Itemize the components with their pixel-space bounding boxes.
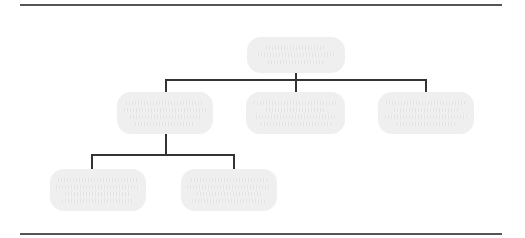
- connector-to-grandchild-1: [91, 154, 93, 169]
- node-child-2: [246, 92, 345, 134]
- obscured-text-line: [191, 178, 267, 182]
- obscured-text-line: [58, 178, 138, 182]
- obscured-text-line: [62, 199, 134, 203]
- top-rule: [20, 4, 502, 6]
- node-child-2-label: [295, 113, 296, 114]
- connector-to-child-1: [165, 79, 167, 92]
- obscured-text-line: [130, 115, 200, 119]
- node-child-1: [117, 92, 213, 134]
- node-grandchild-1: [50, 169, 146, 211]
- obscured-text-line: [65, 192, 131, 196]
- obscured-text-line: [266, 108, 326, 112]
- obscured-text-line: [386, 101, 466, 105]
- obscured-text-line: [385, 115, 467, 119]
- obscured-text-line: [256, 115, 336, 119]
- connector-to-grandchild-2: [233, 154, 235, 169]
- node-root: [247, 37, 345, 73]
- obscured-text-line: [124, 108, 206, 112]
- obscured-text-line: [197, 192, 261, 196]
- obscured-text-line: [135, 122, 195, 126]
- connector-to-child-2: [295, 79, 297, 92]
- obscured-text-line: [261, 122, 331, 126]
- obscured-text-line: [268, 60, 324, 64]
- obscured-text-line: [126, 101, 204, 105]
- obscured-text-line: [56, 185, 140, 189]
- node-grandchild-2-label: [229, 190, 230, 191]
- obscured-text-line: [258, 53, 334, 57]
- obscured-text-line: [397, 122, 455, 126]
- node-grandchild-2: [181, 169, 277, 211]
- connector-child-1-down: [165, 134, 167, 156]
- obscured-text-line: [192, 199, 266, 203]
- node-child-3-label: [426, 113, 427, 114]
- connector-level2-bar: [91, 154, 235, 156]
- node-child-1-label: [165, 113, 166, 114]
- connector-to-child-3: [425, 79, 427, 92]
- node-grandchild-1-label: [98, 190, 99, 191]
- bottom-rule: [20, 233, 502, 235]
- obscured-text-line: [266, 46, 326, 50]
- node-child-3: [378, 92, 474, 134]
- obscured-text-line: [394, 108, 458, 112]
- obscured-text-line: [187, 185, 271, 189]
- obscured-text-line: [254, 101, 338, 105]
